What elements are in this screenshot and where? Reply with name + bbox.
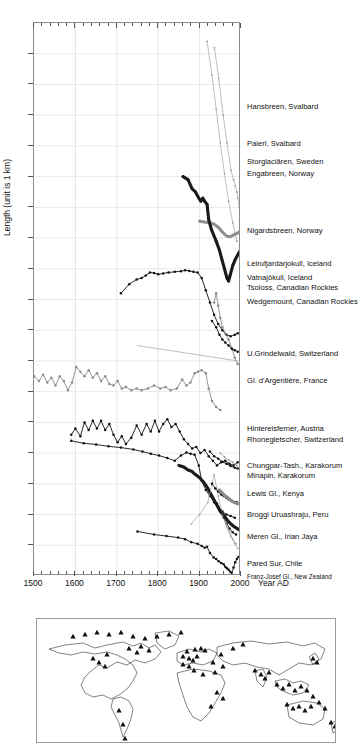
x-tick-label: 1700 [106,578,125,588]
series-16 [219,490,237,504]
x-axis-tick [240,23,241,28]
y-axis-tick [28,452,33,453]
x-axis-tick [223,23,224,26]
x-tick-label: 1900 [189,578,208,588]
x-axis-tick [157,571,158,576]
x-axis-tick [165,23,166,26]
series-6 [211,320,239,353]
x-axis-tick [91,571,92,574]
series-label-0: Hansbreen, Svalbard [247,103,318,111]
y-axis-tick [28,145,33,146]
x-axis-tick [116,23,117,28]
x-axis-tick [83,571,84,574]
x-axis-tick [190,571,191,574]
series-label-18: Pared Sur, Chile [247,560,302,568]
x-axis-tick [108,571,109,574]
glacier-length-chart: 150016001700180019002000 Year AD Length … [0,0,362,600]
series-label-3: Engabreen, Norway [247,170,314,178]
x-axis-tick [157,23,158,28]
series-1 [206,41,238,242]
y-axis-title: Length (unit is 1 km) [2,159,12,236]
series-3 [182,175,240,282]
series-9 [70,418,239,467]
x-axis-tick [141,571,142,574]
x-axis-tick [223,571,224,574]
series-label-11: Hintereisferner, Austria [247,425,324,433]
x-axis-tick [190,23,191,26]
series-label-8: Wedgemount, Canadian Rockies [247,298,358,306]
x-axis-tick [99,23,100,26]
world-map-svg [37,619,336,743]
x-axis-tick [91,23,92,26]
x-axis-tick [33,571,34,576]
series-label-15: Lewis Gl., Kenya [247,490,304,498]
x-axis-tick [66,23,67,26]
y-axis-tick [28,53,33,54]
series-12 [190,474,238,549]
x-axis-tick [124,23,125,26]
series-label-14: Minapin, Karakorum [247,472,315,480]
y-axis-tick [28,391,33,392]
x-axis-tick [174,23,175,26]
y-axis-tick [28,483,33,484]
y-axis-tick [28,360,33,361]
x-axis-tick [83,23,84,26]
x-axis-tick [99,571,100,574]
series-layer [34,23,240,575]
x-axis-tick [74,571,75,576]
series-label-2: Storglaciären, Sweden [247,158,323,166]
x-axis-tick [50,23,51,26]
x-axis-tick [199,571,200,576]
figure-root: 150016001700180019002000 Year AD Length … [0,0,362,753]
x-axis-tick [232,571,233,574]
y-axis-tick [28,544,33,545]
series-label-6: Vatnajökull, Iceland [247,274,312,282]
x-axis-tick [174,571,175,574]
y-axis-tick [28,114,33,115]
series-label-5: Leirufjardarjokull, Iceland [247,260,331,268]
series-label-9: U.Grindelwald, Switzerland [247,350,338,358]
series-label-19: Franz-Josef Gl., New Zealand [247,574,332,580]
x-axis-tick [132,571,133,574]
x-axis-tick [149,23,150,26]
y-axis-tick [28,421,33,422]
plot-area [33,22,240,575]
x-tick-label: 1800 [148,578,167,588]
series-label-17: Meren Gl., Irian Jaya [247,533,317,541]
series-7 [138,346,238,361]
series-label-1: Paierl, Svalbard [247,140,301,148]
y-axis-tick [28,237,33,238]
series-label-7: Tsoloss, Canadian Rockies [247,284,338,292]
x-axis-tick [108,23,109,26]
x-axis-tick [182,23,183,26]
y-axis-tick [28,83,33,84]
world-map-inset [36,618,336,743]
x-axis-tick [58,23,59,26]
x-axis-tick [240,571,241,576]
series-4 [120,269,239,338]
x-axis-tick [41,571,42,574]
x-axis-tick [41,23,42,26]
series-label-4: Nigardsbreen, Norway [247,227,323,235]
series-19 [136,530,240,574]
x-axis-tick [182,571,183,574]
x-axis-tick [232,23,233,26]
series-label-16: Broggi Uruashraju, Peru [247,511,328,519]
x-axis-tick [149,571,150,574]
x-axis-tick [207,571,208,574]
x-axis-tick [207,23,208,26]
x-axis-tick [58,571,59,574]
x-axis-tick [33,23,34,28]
series-2 [200,221,240,236]
y-axis-tick [28,176,33,177]
x-axis-tick [124,571,125,574]
x-axis-tick [215,571,216,574]
x-axis-tick [132,23,133,26]
x-axis-tick [199,23,200,28]
x-axis-tick [50,571,51,574]
y-axis-tick [28,514,33,515]
x-axis-tick [116,571,117,576]
y-axis-tick [28,268,33,269]
x-tick-label: 1600 [65,578,84,588]
series-label-13: Chungpar-Tash., Karakorum [247,462,342,470]
